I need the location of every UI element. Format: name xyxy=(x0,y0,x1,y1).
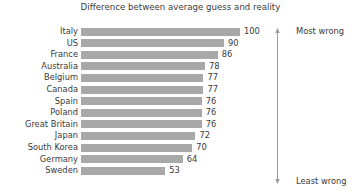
bar-row: Belgium77 xyxy=(0,72,361,83)
bar-row-label: Spain xyxy=(0,96,78,107)
bar-row: South Korea70 xyxy=(0,142,361,153)
bar-row-label: Canada xyxy=(0,84,78,95)
plot-area: Italy100US90France86Australia78Belgium77… xyxy=(0,25,361,190)
bar-row: Japan72 xyxy=(0,130,361,141)
bar-value-label: 90 xyxy=(228,38,239,49)
bar-value-label: 100 xyxy=(244,26,260,37)
bar xyxy=(81,28,240,36)
bar-value-label: 53 xyxy=(169,165,180,176)
bar-row-label: Belgium xyxy=(0,72,78,83)
bar-row-label: Germany xyxy=(0,154,78,165)
bar-row-label: France xyxy=(0,49,78,60)
bar xyxy=(81,74,203,82)
bar-row: Poland76 xyxy=(0,107,361,118)
bar-row: Germany64 xyxy=(0,154,361,165)
bar-row-label: Great Britain xyxy=(0,119,78,130)
bar-value-label: 76 xyxy=(206,119,217,130)
bar-row-label: Sweden xyxy=(0,165,78,176)
bar xyxy=(81,109,202,117)
bar xyxy=(81,97,202,105)
bar-value-label: 77 xyxy=(207,84,218,95)
bar-value-label: 72 xyxy=(199,130,210,141)
bar-row: Spain76 xyxy=(0,96,361,107)
bar-value-label: 70 xyxy=(196,142,207,153)
bar-row: France86 xyxy=(0,49,361,60)
bar xyxy=(81,144,192,152)
bar-row: US90 xyxy=(0,38,361,49)
bar-value-label: 64 xyxy=(187,154,198,165)
bar xyxy=(81,39,224,47)
bar-value-label: 76 xyxy=(206,96,217,107)
bar-chart: Difference between average guess and rea… xyxy=(0,0,361,196)
bar-value-label: 76 xyxy=(206,107,217,118)
bar-row: Sweden53 xyxy=(0,165,361,176)
bar xyxy=(81,86,203,94)
bar xyxy=(81,155,183,163)
bar-row: Canada77 xyxy=(0,84,361,95)
bar-value-label: 77 xyxy=(207,72,218,83)
bar-row-label: US xyxy=(0,38,78,49)
bar-value-label: 86 xyxy=(222,49,233,60)
bar-row: Great Britain76 xyxy=(0,119,361,130)
bar-value-label: 78 xyxy=(209,61,220,72)
bar xyxy=(81,51,218,59)
bar xyxy=(81,132,195,140)
bar-row-label: Poland xyxy=(0,107,78,118)
bar-row: Australia78 xyxy=(0,61,361,72)
bar-row-label: South Korea xyxy=(0,142,78,153)
bar xyxy=(81,120,202,128)
bar-row-label: Italy xyxy=(0,26,78,37)
bar-row-label: Australia xyxy=(0,61,78,72)
chart-title: Difference between average guess and rea… xyxy=(0,2,361,12)
bar xyxy=(81,167,165,175)
bar-row: Italy100 xyxy=(0,26,361,37)
bar xyxy=(81,62,205,70)
bar-row-label: Japan xyxy=(0,130,78,141)
